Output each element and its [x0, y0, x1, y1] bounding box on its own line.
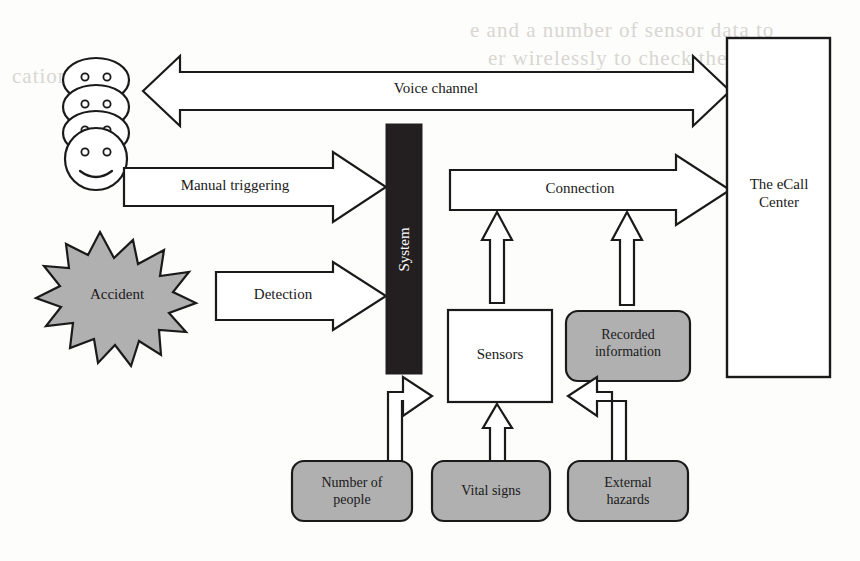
- number-of-people-label: Number of people: [294, 475, 410, 508]
- manual-triggering-label: Manual triggering: [140, 177, 330, 195]
- smiley-faces-stack-icon: [63, 58, 129, 190]
- system-label: System: [396, 215, 413, 285]
- recorded-to-connection-arrow: [612, 212, 642, 305]
- external-hazards-label: External hazards: [570, 475, 686, 508]
- smiley-face-4: [65, 128, 127, 190]
- hazards-to-sensors-arrow: [568, 377, 626, 461]
- accident-label: Accident: [62, 286, 172, 304]
- vital-to-sensors-arrow: [483, 404, 512, 461]
- recorded-information-label: Recorded information: [568, 327, 688, 360]
- connection-label: Connection: [505, 180, 655, 198]
- people-to-sensors-arrow: [388, 377, 432, 461]
- detection-label: Detection: [228, 286, 338, 304]
- ecall-center-label: The eCall Center: [729, 176, 829, 211]
- vital-signs-label: Vital signs: [434, 483, 548, 500]
- voice-channel-label: Voice channel: [336, 80, 536, 98]
- sensors-to-connection-arrow: [482, 212, 512, 303]
- sensors-label: Sensors: [450, 346, 550, 364]
- diagram-canvas: e and a number of sensor data to er wire…: [0, 0, 860, 561]
